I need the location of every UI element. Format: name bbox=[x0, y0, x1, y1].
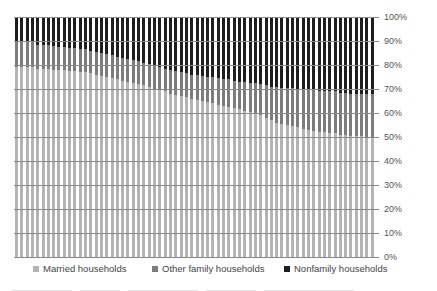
bar-segment bbox=[211, 17, 214, 77]
bar-segment bbox=[312, 90, 315, 131]
legend: Married households Other family househol… bbox=[0, 263, 437, 277]
bar-segment bbox=[233, 108, 236, 257]
bar-segment bbox=[291, 126, 294, 257]
bar-segment bbox=[84, 72, 87, 257]
bar-segment bbox=[280, 17, 283, 88]
bar-segment bbox=[153, 89, 156, 257]
bar-segment bbox=[334, 17, 337, 91]
bar-segment bbox=[275, 123, 278, 257]
bar-segment bbox=[291, 88, 294, 126]
bar-segment bbox=[291, 17, 294, 88]
gridline bbox=[14, 65, 379, 66]
bar-segment bbox=[68, 17, 71, 48]
bar-segment bbox=[349, 17, 352, 94]
y-tick-label: 20% bbox=[384, 204, 402, 214]
bar-segment bbox=[339, 17, 342, 93]
bar-segment bbox=[31, 17, 34, 42]
bar-segment bbox=[302, 17, 305, 89]
bar-segment bbox=[57, 47, 60, 70]
bar-segment bbox=[142, 85, 145, 257]
bar-segment bbox=[36, 69, 39, 257]
bar-segment bbox=[158, 67, 161, 90]
bar-segment bbox=[132, 60, 135, 83]
bar-segment bbox=[312, 131, 315, 257]
bar-segment bbox=[52, 46, 55, 70]
bar-segment bbox=[57, 17, 60, 47]
bar-segment bbox=[174, 17, 177, 71]
y-tick-label: 80% bbox=[384, 60, 402, 70]
bar-segment bbox=[73, 48, 76, 71]
bar-segment bbox=[280, 124, 283, 257]
bar-segment bbox=[84, 49, 87, 72]
bar-segment bbox=[126, 59, 129, 82]
bar-segment bbox=[344, 135, 347, 257]
legend-label-married: Married households bbox=[43, 263, 126, 274]
bar-segment bbox=[365, 17, 368, 94]
bar-segment bbox=[73, 17, 76, 48]
bar-segment bbox=[307, 90, 310, 130]
bar-segment bbox=[270, 87, 273, 121]
bar-segment bbox=[79, 17, 82, 49]
bar-segment bbox=[222, 79, 225, 105]
bar-segment bbox=[318, 17, 321, 91]
bar-segment bbox=[328, 17, 331, 91]
bar-segment bbox=[307, 17, 310, 90]
gridline bbox=[14, 161, 379, 162]
bar-segment bbox=[31, 42, 34, 67]
bar-segment bbox=[243, 111, 246, 257]
bar-segment bbox=[243, 82, 246, 111]
bar-segment bbox=[238, 109, 241, 257]
bar-segment bbox=[339, 135, 342, 257]
bar-segment bbox=[68, 71, 71, 257]
bar-segment bbox=[121, 58, 124, 81]
bar-segment bbox=[169, 17, 172, 70]
bar-segment bbox=[355, 136, 358, 257]
bar-segment bbox=[312, 17, 315, 90]
bar-segment bbox=[121, 81, 124, 257]
gridline bbox=[14, 257, 379, 258]
bar-segment bbox=[254, 83, 257, 113]
bar-segment bbox=[227, 79, 230, 107]
bar-segment bbox=[142, 17, 145, 63]
gridline bbox=[14, 89, 379, 90]
bar-segment bbox=[265, 118, 268, 257]
legend-swatch-nonfamily bbox=[284, 266, 290, 272]
bar-segment bbox=[270, 17, 273, 87]
bar-segment bbox=[111, 78, 114, 257]
bar-segment bbox=[217, 17, 220, 78]
bar-segment bbox=[63, 47, 66, 70]
y-tick-label: 10% bbox=[384, 228, 402, 238]
y-tick-label: 0% bbox=[384, 252, 397, 262]
bar-segment bbox=[169, 70, 172, 94]
y-tick-label: 60% bbox=[384, 108, 402, 118]
bar-segment bbox=[164, 17, 167, 69]
bar-segment bbox=[100, 17, 103, 53]
bar-segment bbox=[89, 51, 92, 74]
y-tick-label: 40% bbox=[384, 156, 402, 166]
legend-label-other-family: Other family households bbox=[162, 263, 264, 274]
bar-segment bbox=[185, 73, 188, 97]
faded-caption bbox=[12, 281, 412, 289]
bar-segment bbox=[79, 49, 82, 72]
bar-segment bbox=[307, 130, 310, 257]
gridline bbox=[14, 113, 379, 114]
bar-segment bbox=[265, 17, 268, 85]
bar-segment bbox=[296, 89, 299, 127]
bar-segment bbox=[95, 17, 98, 52]
bar-segment bbox=[349, 136, 352, 257]
bar-segment bbox=[52, 70, 55, 257]
y-tick-label: 90% bbox=[384, 36, 402, 46]
bar-segment bbox=[286, 125, 289, 257]
bar-segment bbox=[243, 17, 246, 82]
bar-segment bbox=[79, 72, 82, 257]
bar-segment bbox=[15, 42, 18, 67]
bar-segment bbox=[302, 89, 305, 129]
bar-segment bbox=[180, 17, 183, 72]
legend-item-other-family: Other family households bbox=[152, 263, 264, 274]
bar-segment bbox=[57, 70, 60, 257]
legend-swatch-other-family bbox=[152, 266, 158, 272]
bar-segment bbox=[132, 83, 135, 257]
y-tick-label: 30% bbox=[384, 180, 402, 190]
bar-segment bbox=[323, 91, 326, 132]
bar-segment bbox=[222, 17, 225, 79]
